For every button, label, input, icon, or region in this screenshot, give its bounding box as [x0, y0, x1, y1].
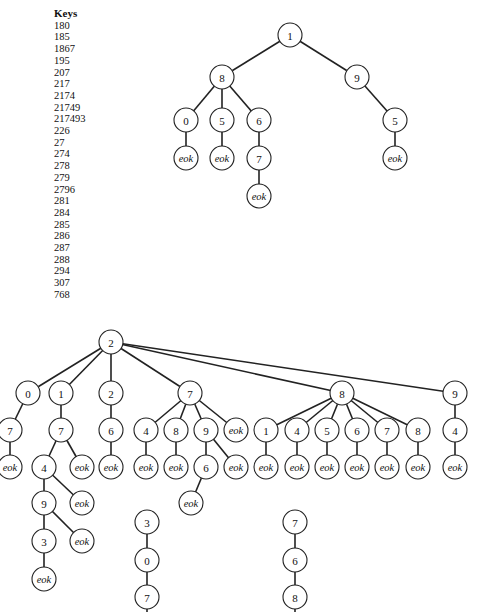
node-label: eok [350, 462, 365, 473]
node-label: 8 [292, 592, 298, 604]
node-label: 7 [144, 592, 150, 604]
edge [111, 342, 455, 393]
node-label: 7 [58, 425, 64, 437]
node-label: 9 [452, 388, 458, 400]
node-label: eok [3, 462, 18, 473]
trie-node: 6 [247, 108, 271, 132]
trie-node: 3 [32, 529, 56, 553]
node-label: eok [75, 536, 90, 547]
node-label: eok [104, 462, 119, 473]
node-label: eok [388, 153, 403, 164]
eok-node: eok [315, 455, 339, 479]
trie-node: 1 [254, 418, 278, 442]
trie-node: 3 [135, 510, 159, 534]
trie-node: 8 [406, 418, 430, 442]
eok-node: eok [224, 455, 248, 479]
trie-node: 7 [247, 146, 271, 170]
trie-node: 2 [99, 330, 123, 354]
node-label: eok [75, 462, 90, 473]
trie-node: 4 [134, 418, 158, 442]
node-label: 7 [292, 517, 298, 529]
node-label: 1 [58, 388, 64, 400]
eok-node: eok [406, 455, 430, 479]
node-label: 7 [384, 425, 390, 437]
node-label: eok [229, 425, 244, 436]
node-label: 1 [287, 30, 293, 42]
trie-node: 1 [49, 381, 73, 405]
eok-node: eok [210, 146, 234, 170]
eok-node: eok [0, 455, 22, 479]
node-label: eok [252, 191, 267, 202]
trie-node: 5 [383, 108, 407, 132]
node-label: 6 [256, 115, 262, 127]
node-label: 6 [108, 425, 114, 437]
node-label: 4 [41, 462, 47, 474]
node-label: eok [229, 462, 244, 473]
trie-node: 1 [278, 23, 302, 47]
node-label: eok [139, 462, 154, 473]
trie-node: 8 [210, 65, 234, 89]
trie-node: 7 [0, 418, 22, 442]
trie-node: 7 [375, 418, 399, 442]
node-label: 0 [25, 388, 31, 400]
trie-diagram: 1890565eokeok7eokeok2012789776489eok1456… [0, 0, 490, 612]
trie-node: 8 [164, 418, 188, 442]
node-label: eok [179, 153, 194, 164]
eok-node: eok [247, 184, 271, 208]
eok-node: eok [375, 455, 399, 479]
eok-node: eok [443, 455, 467, 479]
edge [111, 342, 190, 393]
node-label: 8 [415, 425, 421, 437]
trie-node: 9 [194, 418, 218, 442]
eok-node: eok [99, 455, 123, 479]
eok-node: eok [383, 146, 407, 170]
eok-node: eok [224, 418, 248, 442]
node-label: eok [215, 153, 230, 164]
eok-node: eok [70, 529, 94, 553]
trie-node: 2 [99, 381, 123, 405]
trie-node: 9 [345, 65, 369, 89]
trie-node: 4 [285, 418, 309, 442]
node-label: 8 [339, 388, 345, 400]
node-label: 2 [108, 337, 114, 349]
node-label: eok [169, 462, 184, 473]
node-label: eok [448, 462, 463, 473]
node-label: eok [380, 462, 395, 473]
trie-node: 7 [135, 585, 159, 609]
trie-node: 7 [49, 418, 73, 442]
node-label: eok [320, 462, 335, 473]
node-label: eok [259, 462, 274, 473]
node-label: eok [37, 574, 52, 585]
trie-node: 0 [135, 548, 159, 572]
node-label: 4 [294, 425, 300, 437]
node-label: 0 [144, 555, 150, 567]
node-label: eok [184, 498, 199, 509]
eok-node: eok [32, 567, 56, 591]
trie-node: 0 [16, 381, 40, 405]
eok-node: eok [164, 455, 188, 479]
node-label: 4 [143, 425, 149, 437]
node-label: 5 [219, 115, 225, 127]
node-label: 9 [354, 72, 360, 84]
node-label: 3 [144, 517, 150, 529]
node-label: 3 [41, 536, 47, 548]
node-label: 6 [203, 462, 209, 474]
trie-node: 8 [283, 585, 307, 609]
eok-node: eok [254, 455, 278, 479]
eok-node: eok [345, 455, 369, 479]
eok-node: eok [70, 455, 94, 479]
node-label: 7 [256, 153, 262, 165]
node-label: 9 [203, 425, 209, 437]
trie-node: 6 [345, 418, 369, 442]
node-label: 6 [292, 555, 298, 567]
node-label: 5 [324, 425, 330, 437]
trie-node: 5 [210, 108, 234, 132]
node-label: 8 [219, 72, 225, 84]
node-label: 9 [41, 498, 47, 510]
node-label: 7 [7, 425, 13, 437]
eok-node: eok [174, 146, 198, 170]
node-label: 5 [392, 115, 398, 127]
eok-node: eok [70, 491, 94, 515]
trie-node: 9 [32, 491, 56, 515]
trie-node: 4 [32, 455, 56, 479]
